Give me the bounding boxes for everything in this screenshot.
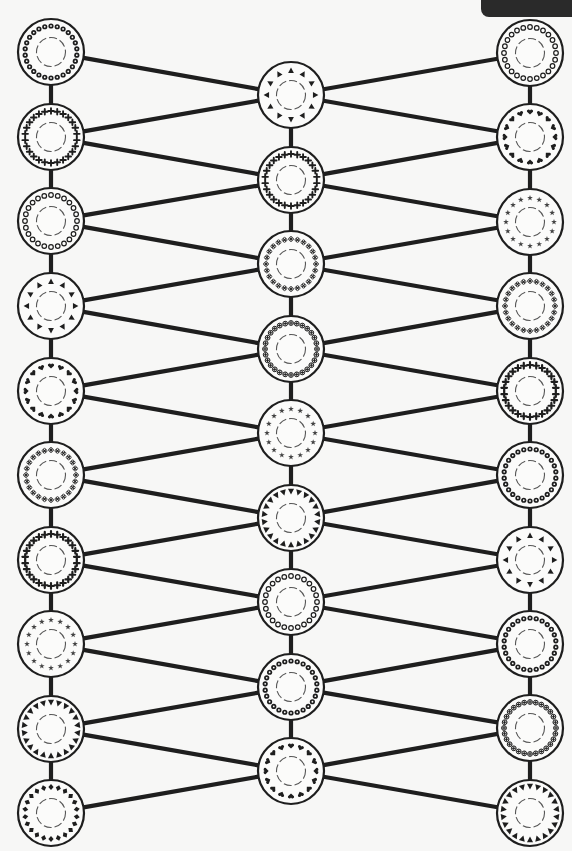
middle-node-9[interactable]	[258, 738, 324, 804]
left-node-9[interactable]	[18, 696, 84, 762]
middle-node-1[interactable]	[258, 62, 324, 128]
diagonal-link	[84, 186, 259, 216]
diagonal-link	[324, 777, 498, 808]
node-network	[0, 0, 572, 851]
node-outline	[497, 273, 563, 339]
right-node-8[interactable]	[497, 611, 563, 677]
diagonal-link	[83, 650, 258, 681]
middle-node-6[interactable]	[258, 485, 324, 551]
left-node-2[interactable]	[18, 104, 84, 170]
puzzle-canvas	[0, 0, 572, 851]
diagonal-link	[324, 270, 498, 301]
diagonal-link	[84, 566, 259, 597]
diagonal-link	[323, 650, 497, 681]
middle-node-3[interactable]	[258, 231, 324, 297]
diagonal-link	[324, 228, 498, 259]
diagonal-link	[324, 524, 498, 555]
right-node-1[interactable]	[497, 20, 563, 86]
right-node-7[interactable]	[497, 527, 563, 593]
diagonal-link	[324, 355, 498, 386]
diagonal-link	[324, 59, 498, 90]
diagonal-link	[84, 608, 259, 639]
diagonal-link	[323, 481, 497, 512]
left-node-5[interactable]	[18, 358, 84, 424]
diagonal-link	[84, 101, 259, 132]
node-outline	[18, 19, 84, 85]
diagonal-link	[83, 58, 258, 89]
right-node-3[interactable]	[497, 189, 563, 255]
diagonal-link	[323, 734, 497, 765]
node-outline	[18, 696, 84, 762]
diagonal-link	[84, 693, 259, 724]
middle-node-2[interactable]	[258, 147, 324, 213]
diagonal-link	[324, 439, 498, 470]
node-outline	[497, 442, 563, 508]
right-node-9[interactable]	[497, 695, 563, 761]
middle-node-4[interactable]	[258, 316, 324, 382]
corner-tab[interactable]	[481, 0, 572, 17]
node-outline	[258, 231, 324, 297]
diagonal-link	[83, 481, 258, 512]
diagonal-link	[324, 693, 498, 723]
node-outline	[258, 485, 324, 551]
diagonal-link	[324, 608, 498, 639]
diagonal-link	[83, 227, 258, 258]
right-node-6[interactable]	[497, 442, 563, 508]
left-node-8[interactable]	[18, 611, 84, 677]
node-outline	[497, 780, 563, 846]
left-node-6[interactable]	[18, 442, 84, 508]
left-node-3[interactable]	[18, 188, 84, 254]
diagonal-link	[84, 735, 259, 766]
right-node-4[interactable]	[497, 273, 563, 339]
middle-node-7[interactable]	[258, 569, 324, 635]
diagonal-link	[84, 270, 259, 301]
diagonal-link	[83, 312, 258, 343]
right-node-10[interactable]	[497, 780, 563, 846]
diagonal-link	[84, 439, 259, 470]
middle-node-5[interactable]	[258, 400, 324, 466]
diagonal-link	[324, 397, 498, 428]
node-outline	[18, 442, 84, 508]
middle-node-8[interactable]	[258, 654, 324, 720]
diagonal-link	[84, 524, 259, 555]
diagonal-link	[324, 186, 498, 217]
diagonal-link	[323, 312, 497, 343]
left-node-7[interactable]	[18, 527, 84, 593]
node-outline	[258, 654, 324, 720]
left-node-10[interactable]	[18, 780, 84, 846]
left-node-1[interactable]	[18, 19, 84, 85]
diagonal-link	[84, 355, 259, 386]
right-node-2[interactable]	[497, 104, 563, 170]
diagonal-link	[84, 397, 259, 428]
diagonal-link	[323, 143, 497, 174]
diagonal-link	[324, 566, 498, 597]
right-node-5[interactable]	[497, 358, 563, 424]
diagonal-link	[324, 101, 498, 132]
diagonal-link	[84, 777, 259, 808]
diagonal-link	[83, 143, 258, 174]
left-node-4[interactable]	[18, 273, 84, 339]
node-outline	[497, 611, 563, 677]
